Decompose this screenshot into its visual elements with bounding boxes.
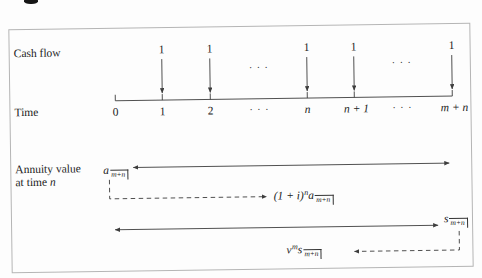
time-tick-label: 0 bbox=[113, 106, 119, 119]
fv-span-arrow bbox=[115, 225, 438, 230]
annuity-row-label-line1: Annuity value bbox=[15, 162, 81, 176]
cropped-caption-artifact bbox=[24, 0, 38, 4]
payment-amount: 1 bbox=[304, 41, 310, 54]
payment-amount: 1 bbox=[351, 40, 357, 53]
pv-span-arrow bbox=[133, 163, 449, 167]
time-tick-label: n + 1 bbox=[344, 102, 369, 116]
payment-ellipsis: · · · bbox=[392, 57, 412, 69]
time-ellipsis: · · · bbox=[249, 104, 269, 116]
discount-dashed-arrow bbox=[354, 231, 459, 251]
actuarial-angle: m+n bbox=[303, 249, 321, 259]
time-row-label: Time bbox=[14, 106, 38, 120]
actuarial-angle: m+n bbox=[110, 170, 128, 180]
timeline-axis bbox=[115, 96, 452, 101]
formula-discounted-fv: vmsm+n bbox=[286, 243, 321, 257]
formula-pv: am+n bbox=[103, 164, 128, 178]
payment-amount: 1 bbox=[449, 39, 455, 52]
formula-fv: sm+n bbox=[444, 212, 468, 226]
timeline-ticks bbox=[115, 90, 452, 101]
time-ellipsis: · · · bbox=[392, 102, 412, 114]
annuity-row-label-line2: at time n bbox=[15, 176, 55, 190]
accumulate-dashed-arrow bbox=[109, 178, 266, 199]
time-tick-label: 2 bbox=[208, 104, 214, 117]
formula-accumulated-pv: (1 + i)nam+n bbox=[274, 189, 334, 203]
time-tick-label: n bbox=[305, 103, 311, 116]
actuarial-angle: m+n bbox=[449, 218, 467, 228]
figure-frame: Cash flow Time Annuity value at time n 1… bbox=[8, 23, 473, 273]
actuarial-angle: m+n bbox=[315, 195, 333, 205]
time-tick-label: m + n bbox=[441, 101, 469, 115]
scanned-textbook-figure: { "figure": { "rows": { "cash_flow": "Ca… bbox=[0, 0, 482, 278]
time-tick-label: 1 bbox=[160, 105, 166, 118]
payment-amount: 1 bbox=[207, 42, 213, 55]
payment-ellipsis: · · · bbox=[249, 62, 269, 74]
payment-amount: 1 bbox=[159, 43, 165, 56]
cash-flow-row-label: Cash flow bbox=[14, 47, 61, 61]
